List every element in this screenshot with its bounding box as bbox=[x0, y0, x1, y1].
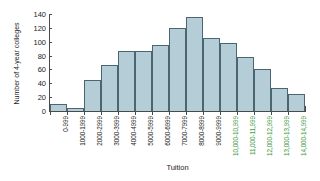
y-axis-tick-mark bbox=[49, 56, 52, 57]
histogram-bar bbox=[169, 28, 186, 111]
histogram-bar bbox=[271, 88, 288, 111]
y-axis-tick-label: 80 bbox=[22, 52, 46, 59]
y-axis-tick-label: 60 bbox=[22, 66, 46, 73]
x-axis-tick-mark bbox=[271, 112, 288, 115]
x-axis-tick-marks bbox=[50, 112, 305, 115]
histogram-bar bbox=[50, 104, 67, 111]
histogram-chart: Number of 4-year colleges 02040608010012… bbox=[0, 0, 320, 181]
y-axis-tick-label: 0 bbox=[22, 108, 46, 115]
histogram-bar bbox=[237, 57, 254, 111]
x-axis-tick-mark bbox=[135, 112, 152, 115]
x-axis-tick-label: 14,000-14,999 bbox=[300, 116, 306, 156]
histogram-bar bbox=[84, 80, 101, 111]
y-axis-tick-mark bbox=[49, 14, 52, 15]
x-axis-tick-mark bbox=[84, 112, 101, 115]
y-axis-tick-mark bbox=[49, 111, 52, 112]
x-axis-label-cell: 0-999 bbox=[50, 116, 67, 160]
y-axis-tick-label: 140 bbox=[22, 11, 46, 18]
x-axis-label-cell: 8000-8999 bbox=[186, 116, 203, 160]
x-axis-tick-mark bbox=[288, 112, 305, 115]
x-axis-label-cell: 6000-6999 bbox=[152, 116, 169, 160]
y-axis-tick-label: 100 bbox=[22, 38, 46, 45]
x-axis-tick-mark bbox=[101, 112, 118, 115]
x-axis-right-cap bbox=[305, 106, 306, 112]
x-axis-label-cell: 7000-7999 bbox=[169, 116, 186, 160]
y-axis-tick-mark bbox=[49, 97, 52, 98]
y-axis-tick-label: 20 bbox=[22, 94, 46, 101]
x-axis-label-cell: 12,000-12,999 bbox=[254, 116, 271, 160]
y-axis-tick-mark bbox=[49, 42, 52, 43]
histogram-bar bbox=[203, 38, 220, 111]
x-axis-tick-mark bbox=[203, 112, 220, 115]
x-axis-label-cell: 5000-5999 bbox=[135, 116, 152, 160]
bar-series bbox=[50, 14, 305, 111]
x-axis-tick-mark bbox=[220, 112, 237, 115]
x-axis-tick-mark bbox=[67, 112, 84, 115]
y-axis-tick-mark bbox=[49, 69, 52, 70]
y-axis-tick-mark bbox=[49, 28, 52, 29]
histogram-bar bbox=[186, 17, 203, 111]
x-axis-label-cell: 1000-1999 bbox=[67, 116, 84, 160]
histogram-bar bbox=[288, 94, 305, 111]
y-axis-title: Number of 4-year colleges bbox=[13, 4, 20, 124]
x-axis-tick-mark bbox=[254, 112, 271, 115]
x-axis-label-cell: 4000-4999 bbox=[118, 116, 135, 160]
x-axis-tick-mark bbox=[118, 112, 135, 115]
x-axis-label-cell: 3000-3999 bbox=[101, 116, 118, 160]
histogram-bar bbox=[118, 51, 135, 111]
y-axis-tick-labels: 020406080100120140 bbox=[22, 10, 46, 111]
x-axis-label-cell: 14,000-14,999 bbox=[288, 116, 305, 160]
x-axis-title: Tuition bbox=[50, 163, 305, 172]
x-axis-label-cell: 11,000-11,999 bbox=[237, 116, 254, 160]
histogram-bar bbox=[152, 45, 169, 112]
y-axis-tick-label: 120 bbox=[22, 24, 46, 31]
histogram-bar bbox=[220, 43, 237, 111]
x-axis-tick-mark bbox=[169, 112, 186, 115]
x-axis-label-cell: 13,000-13,999 bbox=[271, 116, 288, 160]
histogram-bar bbox=[254, 69, 271, 111]
x-axis-tick-mark bbox=[186, 112, 203, 115]
plot-area bbox=[50, 14, 305, 111]
y-axis-tick-label: 40 bbox=[22, 80, 46, 87]
histogram-bar bbox=[101, 65, 118, 111]
x-axis-tick-mark bbox=[152, 112, 169, 115]
x-axis-label-cell: 10,000-10,999 bbox=[220, 116, 237, 160]
x-axis-tick-mark bbox=[50, 112, 67, 115]
x-axis-label-cell: 9000-9999 bbox=[203, 116, 220, 160]
x-axis-tick-mark bbox=[237, 112, 254, 115]
y-axis-tick-mark bbox=[49, 83, 52, 84]
x-axis-tick-labels: 0-9991000-19992000-29993000-39994000-499… bbox=[50, 116, 305, 160]
histogram-bar bbox=[135, 51, 152, 111]
x-axis-label-cell: 2000-2999 bbox=[84, 116, 101, 160]
